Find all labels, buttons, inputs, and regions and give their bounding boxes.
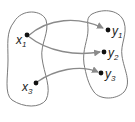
label-y1: y1 bbox=[111, 24, 122, 40]
point-x1 bbox=[25, 33, 30, 38]
point-y3 bbox=[99, 71, 104, 76]
arrow-x1-to-y1 bbox=[28, 20, 103, 36]
mapping-diagram: x1 x3 y1 y2 y3 bbox=[0, 0, 135, 122]
codomain-set-outline bbox=[84, 11, 128, 98]
arrow-x1-to-y2 bbox=[28, 36, 100, 53]
label-y2: y2 bbox=[107, 46, 119, 62]
label-y3: y3 bbox=[104, 67, 116, 83]
point-y1 bbox=[106, 28, 111, 33]
label-x3: x3 bbox=[21, 80, 33, 96]
point-x3 bbox=[34, 81, 39, 86]
point-y2 bbox=[102, 50, 107, 55]
